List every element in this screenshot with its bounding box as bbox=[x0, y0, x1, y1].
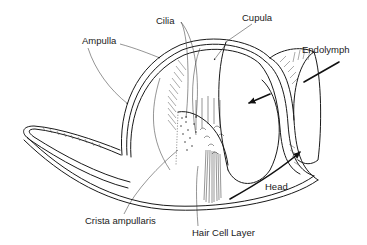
ampulla-leader-2 bbox=[88, 48, 128, 104]
hair-cell-layer-label: Hair Cell Layer bbox=[192, 227, 255, 238]
cilia-leader bbox=[181, 22, 188, 118]
endolymph-label: Endolymph bbox=[302, 44, 350, 55]
cilia-leader-2 bbox=[181, 22, 197, 118]
ampulla-diagram: Cilia Cupula Ampulla Endolymph Crista am… bbox=[0, 0, 367, 245]
endolymph-flow-arrow bbox=[249, 94, 270, 103]
crista-label: Crista ampullaris bbox=[85, 215, 156, 226]
cilia-label: Cilia bbox=[156, 15, 175, 26]
endolymph-flow-line bbox=[304, 62, 339, 82]
cupula-arrow bbox=[214, 44, 226, 60]
cupula-label: Cupula bbox=[242, 12, 273, 23]
hair-cell-fibers bbox=[196, 96, 221, 203]
ampulla-leader-1 bbox=[120, 44, 160, 58]
semicircular-canal bbox=[24, 126, 318, 210]
ampulla-label: Ampulla bbox=[82, 35, 117, 46]
hair-cell-layer-leader bbox=[197, 166, 199, 226]
head-label: Head bbox=[265, 181, 288, 192]
cupula-leader bbox=[226, 24, 252, 42]
cupula bbox=[153, 42, 228, 170]
